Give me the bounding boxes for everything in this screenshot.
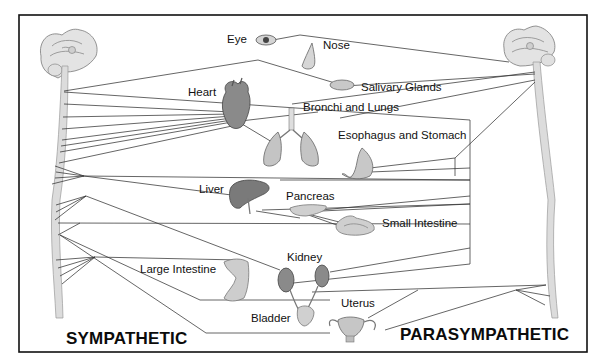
large-intestine-label: Large Intestine <box>140 264 216 276</box>
stomach-icon <box>342 148 373 179</box>
bladder-icon <box>297 306 314 326</box>
nerve-pathways <box>52 35 550 333</box>
salivary-glands-label: Salivary Glands <box>361 82 442 94</box>
liver-icon <box>229 180 269 214</box>
diagram-graphics <box>0 0 606 364</box>
autonomic-diagram: Eye Nose Salivary Glands Heart Bronchi a… <box>0 0 606 364</box>
bronchi-and-lungs-label: Bronchi and Lungs <box>303 102 399 114</box>
nose-icon <box>302 43 315 69</box>
pancreas-icon <box>290 205 326 216</box>
uterus-label: Uterus <box>341 298 375 310</box>
small-intestine-icon <box>336 216 374 235</box>
nose-label: Nose <box>323 40 350 52</box>
uterus-icon <box>329 317 375 342</box>
kidney-icon <box>278 265 329 312</box>
esophagus-and-stomach-label: Esophagus and Stomach <box>338 130 467 142</box>
parasympathetic-title: PARASYMPATHETIC <box>400 326 569 343</box>
liver-label: Liver <box>199 184 224 196</box>
large-intestine-icon <box>224 259 249 301</box>
bladder-label: Bladder <box>251 313 291 325</box>
salivary-glands-icon <box>330 80 354 90</box>
pancreas-label: Pancreas <box>286 191 335 203</box>
sympathetic-title: SYMPATHETIC <box>66 330 188 347</box>
lungs-icon <box>264 108 319 166</box>
parasympathetic-brain-spine-icon <box>504 26 558 318</box>
eye-label: Eye <box>227 34 247 46</box>
heart-label: Heart <box>188 87 216 99</box>
small-intestine-label: Small Intestine <box>382 218 457 230</box>
kidney-label: Kidney <box>287 252 322 264</box>
heart-icon <box>222 78 250 129</box>
eye-icon <box>256 35 276 45</box>
